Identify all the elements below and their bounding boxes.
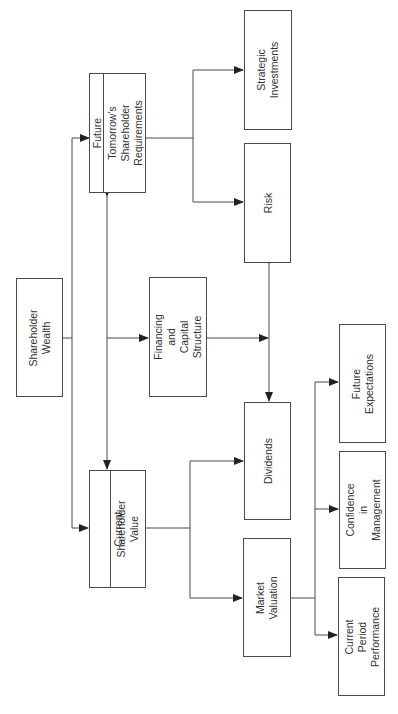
- node-future-requirements: Future Tomorrow's Shareholder Requiremen…: [89, 73, 146, 193]
- node-current-value: Current Shareholder Value: [89, 470, 146, 588]
- node-market-valuation: Market Valuation: [243, 538, 291, 657]
- node-label: Strategic Investments: [255, 42, 281, 99]
- node-future-expectations: Future Expectations: [339, 324, 386, 443]
- node-label: Shareholder Wealth: [27, 309, 53, 366]
- node-label: Future Expectations: [350, 353, 376, 413]
- node-current-period-performance: Current Period Performance: [338, 577, 385, 696]
- node-header: Future: [91, 118, 104, 148]
- node-label: Confidence in Management: [343, 479, 382, 540]
- node-shareholder-wealth: Shareholder Wealth: [16, 278, 63, 397]
- node-label: Dividends: [261, 438, 274, 484]
- node-label: Shareholder Value: [115, 500, 141, 557]
- node-label: Tomorrow's Shareholder Requirements: [105, 100, 144, 165]
- node-financing: Financing and Capital Structure: [149, 277, 207, 397]
- node-label: Current Period Performance: [342, 606, 381, 666]
- node-confidence-management: Confidence in Management: [339, 451, 386, 569]
- node-dividends: Dividends: [244, 402, 291, 520]
- node-risk: Risk: [244, 143, 291, 263]
- node-label: Risk: [261, 193, 274, 213]
- node-strategic-investments: Strategic Investments: [244, 10, 292, 130]
- node-label: Market Valuation: [254, 576, 280, 619]
- node-label: Financing and Capital Structure: [152, 314, 204, 360]
